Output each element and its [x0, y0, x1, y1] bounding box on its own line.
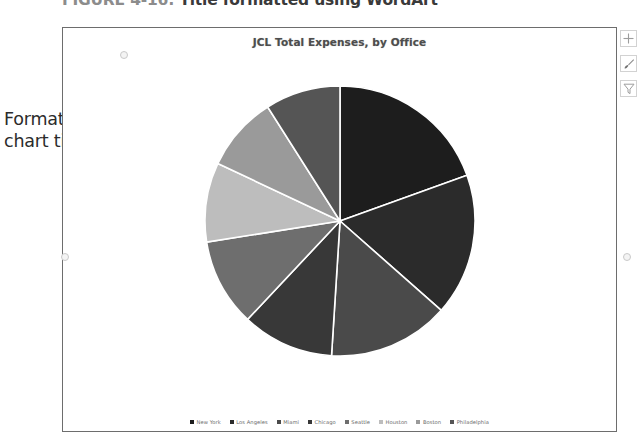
legend-swatch	[450, 420, 454, 424]
legend-label: Miami	[283, 419, 299, 425]
figure-number: FIGURE 4-16:	[62, 0, 174, 9]
chart-filters-button[interactable]	[620, 80, 637, 97]
selection-handle-right-middle[interactable]	[623, 253, 631, 261]
pie-chart-svg[interactable]	[204, 85, 476, 357]
legend-swatch	[345, 420, 349, 424]
legend-label: Boston	[423, 419, 441, 425]
legend-item[interactable]: Chicago	[308, 419, 336, 425]
paintbrush-icon	[623, 58, 635, 70]
legend-item[interactable]: New York	[190, 419, 221, 425]
legend-item[interactable]: Philadelphia	[450, 419, 489, 425]
legend-item[interactable]: Miami	[277, 419, 299, 425]
legend-item[interactable]: Houston	[379, 419, 407, 425]
pie-chart[interactable]	[204, 85, 476, 357]
legend-item[interactable]: Los Angeles	[230, 419, 268, 425]
legend-swatch	[277, 420, 281, 424]
legend-label: Chicago	[315, 419, 336, 425]
legend-label: Philadelphia	[457, 419, 489, 425]
legend-item[interactable]: Seattle	[345, 419, 370, 425]
legend-label: Los Angeles	[236, 419, 268, 425]
legend-swatch	[190, 420, 194, 424]
chart-object-frame[interactable]: JCL Total Expenses, by Office New YorkLo…	[62, 27, 617, 432]
selection-handle-left-middle[interactable]	[61, 253, 69, 261]
figure-caption-text: Title formatted using WordArt	[179, 0, 437, 9]
chart-styles-button[interactable]	[620, 55, 637, 72]
plus-icon	[623, 33, 634, 44]
chart-legend[interactable]: New YorkLos AngelesMiamiChicagoSeattleHo…	[63, 419, 616, 425]
legend-swatch	[379, 420, 383, 424]
legend-label: Seattle	[351, 419, 370, 425]
legend-item[interactable]: Boston	[416, 419, 441, 425]
plot-area[interactable]	[63, 56, 616, 386]
legend-label: Houston	[386, 419, 408, 425]
figure-caption: FIGURE 4-16: Title formatted using WordA…	[62, 0, 438, 9]
chart-title[interactable]: JCL Total Expenses, by Office	[63, 36, 616, 48]
chart-elements-button[interactable]	[620, 30, 637, 47]
selection-handle-top-middle[interactable]	[120, 51, 128, 59]
legend-swatch	[308, 420, 312, 424]
legend-swatch	[230, 420, 234, 424]
funnel-icon	[623, 83, 635, 95]
legend-label: New York	[197, 419, 221, 425]
chart-side-buttons[interactable]	[620, 30, 637, 97]
legend-swatch	[416, 420, 420, 424]
